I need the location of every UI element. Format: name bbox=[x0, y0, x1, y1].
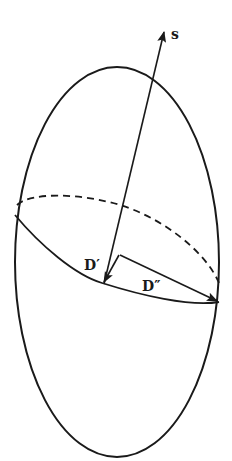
ellipsoid-outline bbox=[15, 67, 219, 457]
d-prime-arrow bbox=[104, 255, 119, 282]
ellipsoid-diagram: s D′ D″ bbox=[0, 0, 232, 461]
label-s: s bbox=[171, 26, 179, 42]
d-double-prime-arrow bbox=[120, 255, 217, 301]
equator-back-dashed bbox=[17, 196, 219, 283]
label-d-prime: D′ bbox=[84, 257, 100, 273]
label-d-double-prime: D″ bbox=[142, 278, 160, 294]
